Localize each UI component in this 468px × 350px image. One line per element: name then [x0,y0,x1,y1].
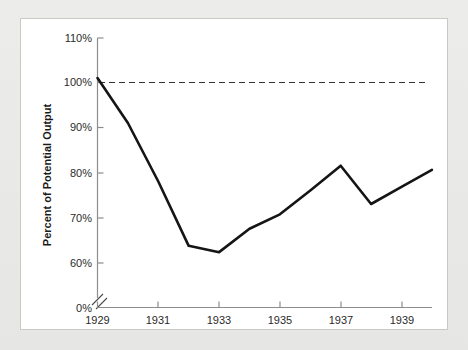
x-tick-label-1931: 1931 [146,314,170,326]
y-tick-label-70: 70% [70,212,92,224]
line-chart: Percent of Potential Output 110% 100% 90… [0,0,468,350]
data-series-line [98,78,432,252]
y-tick-label-60: 60% [70,257,92,269]
x-tick-label-1933: 1933 [207,314,231,326]
y-tick-label-0: 0% [76,302,92,314]
y-tick-label-90: 90% [70,121,92,133]
y-tick-label-110: 110% [65,32,93,44]
x-tick-label-1929: 1929 [85,314,109,326]
x-tick-label-1939: 1939 [390,314,414,326]
y-axis-title: Percent of Potential Output [41,103,53,246]
figure-root: Percent of Potential Output 110% 100% 90… [0,0,468,350]
y-tick-label-100: 100% [64,76,92,88]
x-tick-label-1937: 1937 [329,314,353,326]
y-tick-label-80: 80% [70,167,92,179]
x-tick-label-1935: 1935 [268,314,292,326]
